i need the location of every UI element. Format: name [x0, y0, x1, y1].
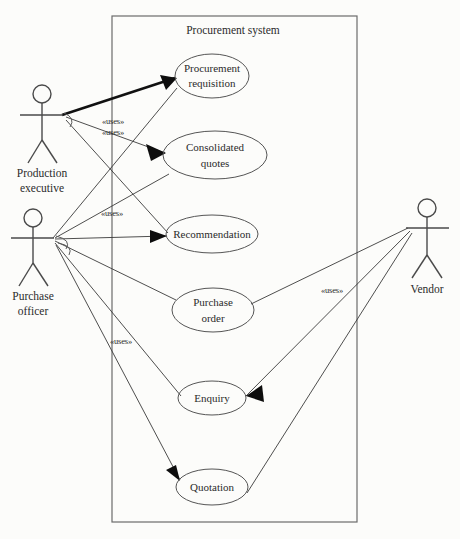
actor-vendor[interactable]: Vendor [406, 199, 449, 295]
link-purchofficer-recommendation [55, 236, 166, 239]
actor-head-icon-production-executive [33, 85, 51, 103]
use-case-label-recommendation-line1: Recommendation [173, 228, 251, 240]
actor-leg-left-vendor [412, 255, 427, 278]
use-case-label-purchase-order-line1: Purchase [193, 296, 233, 308]
actor-leg-right-purchase-officer [33, 263, 48, 286]
link-vendor-quotation [247, 233, 412, 493]
uses-label-5: «uses» [321, 285, 343, 295]
link-purchofficer-purchase-order [55, 241, 176, 300]
use-case-group-quotation[interactable]: Quotation [176, 469, 248, 505]
actor-leg-right-production-executive [42, 140, 57, 163]
use-case-label-enquiry-line1: Enquiry [194, 392, 230, 404]
actor-leg-left-production-executive [28, 140, 42, 163]
use-case-label-quotation-line1: Quotation [190, 481, 234, 493]
uses-label-1: «uses» [102, 116, 124, 126]
actor-label-vendor-line1: Vendor [410, 283, 443, 295]
use-case-label-procurement-requisition-line2: requisition [188, 77, 236, 89]
use-case-label-procurement-requisition-line1: Procurement [184, 62, 240, 74]
arrowhead-quotation [166, 465, 180, 481]
use-case-group-recommendation[interactable]: Recommendation [166, 215, 258, 253]
uses-label-3: «uses» [101, 208, 123, 218]
use-case-label-purchase-order-line2: order [201, 312, 225, 324]
arrowhead-recommendation [150, 230, 167, 243]
uses-label-2: «uses» [102, 127, 124, 137]
actor-purchase-officer[interactable]: Purchase officer [11, 209, 54, 317]
use-case-ellipse-consolidated-quotes[interactable] [163, 131, 267, 179]
actor-label-production-executive-line1: Production [17, 167, 68, 179]
use-case-group-enquiry[interactable]: Enquiry [178, 381, 246, 415]
actor-label-purchase-officer-line1: Purchase [12, 290, 54, 302]
actor-production-executive[interactable]: Production executive [17, 85, 68, 194]
system-boundary-box [112, 16, 357, 522]
system-boundary-label: Procurement system [186, 24, 280, 37]
diagram-svg: Procurement system [0, 0, 460, 539]
actor-head-icon-purchase-officer [24, 209, 42, 227]
link-purchofficer-enquiry [55, 243, 181, 396]
uses-label-4: «uses» [110, 336, 132, 346]
actor-leg-left-purchase-officer [19, 263, 33, 286]
actor-leg-right-vendor [427, 255, 442, 278]
use-case-label-consolidated-quotes-line1: Consolidated [186, 141, 245, 153]
actor-label-production-executive-line2: executive [20, 182, 64, 194]
use-case-group-consolidated-quotes[interactable]: Consolidated quotes [163, 131, 267, 179]
actor-head-icon-vendor [418, 199, 436, 217]
use-case-group-procurement-requisition[interactable]: Procurement requisition [175, 54, 249, 98]
link-prodexec-procurement-requisition [62, 78, 175, 115]
link-vendor-enquiry [246, 231, 410, 396]
use-case-diagram-canvas: Procurement system [0, 0, 460, 539]
actor-label-purchase-officer-line2: officer [18, 305, 49, 317]
use-case-label-consolidated-quotes-line2: quotes [201, 157, 230, 169]
use-case-group-purchase-order[interactable]: Purchase order [172, 288, 254, 332]
link-purchofficer-quotation [56, 245, 180, 480]
